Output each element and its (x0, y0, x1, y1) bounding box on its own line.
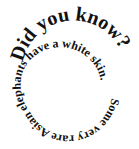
body-text: Some very rare Asian elephants have a wh… (10, 36, 123, 147)
spiral-text-graphic: Did you know? Some very rare Asian eleph… (0, 0, 139, 149)
